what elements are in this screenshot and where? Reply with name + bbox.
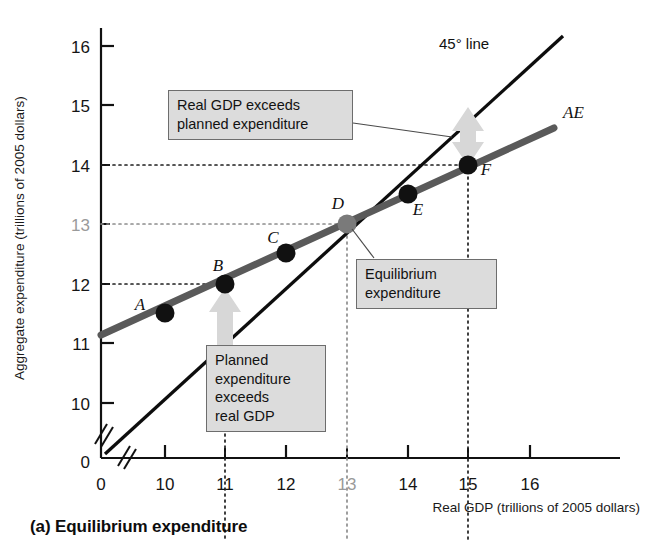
data-point-label-b: B	[213, 256, 224, 275]
data-point-label-e: E	[412, 200, 424, 219]
y-tick-14: 14	[71, 157, 90, 176]
y-tick-16: 16	[71, 38, 90, 57]
x-tick-12: 12	[277, 475, 296, 494]
x-tick-13: 13	[338, 475, 357, 494]
data-point-label-a: A	[134, 295, 146, 314]
x-tick-11: 11	[216, 475, 234, 494]
x-tick-10: 10	[156, 475, 175, 494]
x-tick-16: 16	[521, 475, 540, 494]
y-tick-10: 10	[71, 395, 90, 414]
callout-planned-expenditure-exceeds-real-gdp: Planned expenditure exceeds real GDP	[206, 345, 326, 432]
callout-leader-lines	[229, 123, 452, 371]
figure-caption: (a) Equilibrium expenditure	[30, 517, 247, 537]
x-tick-14: 14	[399, 475, 418, 494]
forty-five-line-label: 45° line	[439, 35, 489, 52]
data-point-label-c: C	[267, 228, 279, 247]
callout-equilibrium-expenditure: Equilibrium expenditure	[356, 259, 497, 309]
x-tick-15: 15	[459, 475, 478, 494]
x-axis-title: Real GDP (trillions of 2005 dollars)	[432, 500, 640, 515]
ae-line-label: AE	[562, 103, 584, 122]
y-tick-11: 11	[72, 335, 90, 354]
data-point-a[interactable]	[156, 304, 175, 323]
y-axis-title: Aggregate expenditure (trillions of 2005…	[12, 96, 27, 380]
data-point-label-f: F	[480, 160, 492, 179]
figure-equilibrium-expenditure: A B C D E F 45° line AE 16 15 14 13 12 1…	[0, 0, 647, 546]
y-tick-15: 15	[71, 97, 90, 116]
callout-real-gdp-exceeds-planned-expenditure: Real GDP exceeds planned expenditure	[168, 90, 353, 140]
data-point-c[interactable]	[277, 244, 296, 263]
x-tick-0: 0	[96, 475, 105, 494]
y-tick-12: 12	[71, 276, 90, 295]
data-point-label-d: D	[331, 194, 345, 213]
y-tick-0: 0	[81, 453, 90, 472]
y-tick-13: 13	[71, 216, 90, 235]
chart-canvas: A B C D E F 45° line AE 16 15 14 13 12 1…	[0, 0, 647, 546]
data-point-b[interactable]	[216, 275, 235, 294]
data-point-f[interactable]	[459, 156, 478, 175]
